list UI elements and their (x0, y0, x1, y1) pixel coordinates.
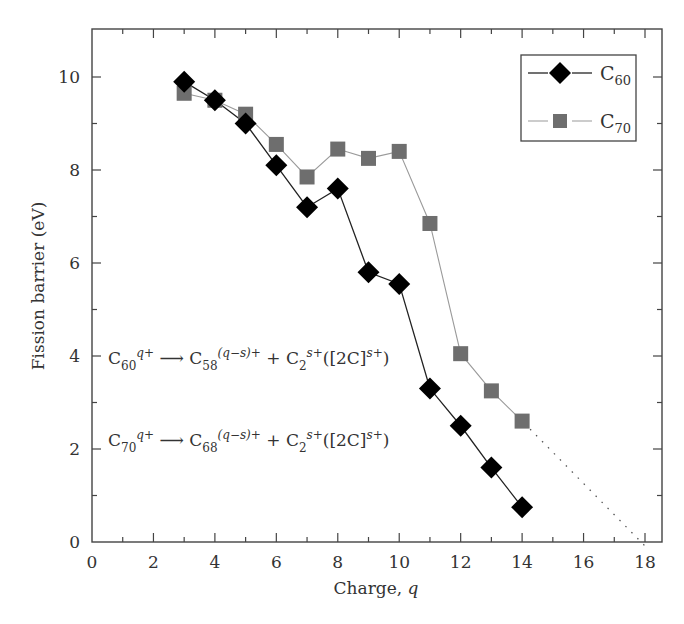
diamond-marker-icon (265, 154, 287, 176)
eq2-product1-sup: (q−s)+ (218, 428, 261, 442)
eq1-product2-sub: 2 (299, 359, 307, 373)
diamond-marker-icon (173, 71, 195, 93)
eq1-reactant-sub: 60 (121, 359, 136, 373)
y-tick-label: 6 (69, 253, 80, 273)
x-axis-title: Charge, q (334, 578, 419, 598)
eq2-product1: C (189, 430, 202, 450)
eq1-alt: ([2C] (323, 348, 367, 368)
diamond-marker-icon (450, 415, 472, 437)
diamond-marker-icon (419, 378, 441, 400)
eq2-alt-close: ) (383, 430, 390, 450)
eq1-product1-sup: (q−s)+ (218, 346, 261, 360)
eq1-plus: + (261, 348, 286, 368)
fission-barrier-chart: 0246810121416180246810 Charge, q Fission… (0, 0, 684, 624)
square-marker-icon (453, 346, 468, 361)
legend-label-c60-sub: 60 (615, 73, 632, 88)
reaction-arrow-icon: ⟶ (159, 348, 183, 368)
x-tick-label: 10 (388, 552, 410, 572)
series-lines (184, 82, 645, 546)
eq2-alt: ([2C] (323, 430, 367, 450)
legend: C60 C70 (521, 55, 636, 141)
x-tick-label: 8 (332, 552, 343, 572)
x-tick-label: 16 (573, 552, 595, 572)
eq1-product2: C (286, 348, 299, 368)
x-tick-label: 4 (209, 552, 220, 572)
y-tick-label: 0 (69, 532, 80, 552)
eq1-product2-sup: s+ (307, 346, 323, 360)
eq2-plus: + (261, 430, 286, 450)
diamond-marker-icon (204, 89, 226, 111)
eq2-product2-sub: 2 (299, 441, 307, 455)
legend-label-c70-sub: 70 (615, 121, 632, 136)
diamond-marker-icon (296, 196, 318, 218)
square-marker-icon (553, 114, 567, 128)
extrapolation-line (530, 429, 645, 546)
eq2-reactant: C (108, 430, 121, 450)
x-tick-label: 0 (87, 552, 98, 572)
x-tick-label: 12 (450, 552, 472, 572)
eq1-alt-close: ) (383, 348, 390, 368)
x-tick-label: 18 (634, 552, 656, 572)
eq2-reactant-sub: 70 (121, 441, 136, 455)
x-tick-label: 14 (511, 552, 533, 572)
eq2-product2: C (286, 430, 299, 450)
reaction-arrow-icon: ⟶ (159, 430, 183, 450)
y-tick-label: 8 (69, 160, 80, 180)
square-marker-icon (422, 216, 437, 231)
eq2-alt-sup: s+ (367, 428, 383, 442)
eq1-alt-sup: s+ (367, 346, 383, 360)
legend-label-c60-base: C (600, 62, 615, 84)
eq1-reactant-sup: q+ (136, 346, 154, 360)
square-marker-icon (515, 414, 530, 429)
diamond-marker-icon (511, 496, 533, 518)
square-marker-icon (484, 383, 499, 398)
eq1-product1-sub: 58 (202, 359, 217, 373)
y-tick-label: 2 (69, 439, 80, 459)
equation-c60: C60q+ ⟶ C58(q−s)+ + C2s+([2C]s+) (108, 346, 389, 371)
square-marker-icon (300, 169, 315, 184)
eq2-product2-sup: s+ (307, 428, 323, 442)
axis-tick-labels: 0246810121416180246810 (58, 67, 655, 572)
x-tick-label: 2 (148, 552, 159, 572)
diamond-marker-icon (480, 457, 502, 479)
y-axis-title: Fission barrier (eV) (28, 202, 48, 371)
square-marker-icon (269, 137, 284, 152)
diamond-marker-icon (327, 178, 349, 200)
diamond-marker-icon (358, 261, 380, 283)
equation-c70: C70q+ ⟶ C68(q−s)+ + C2s+([2C]s+) (108, 428, 389, 453)
eq1-product1: C (189, 348, 202, 368)
y-tick-label: 10 (58, 67, 80, 87)
series-line-c70 (184, 93, 522, 421)
square-marker-icon (361, 151, 376, 166)
x-tick-label: 6 (271, 552, 282, 572)
square-marker-icon (330, 142, 345, 157)
square-marker-icon (392, 144, 407, 159)
diamond-marker-icon (388, 273, 410, 295)
legend-label-c70-base: C (600, 110, 615, 132)
eq2-reactant-sup: q+ (136, 428, 154, 442)
eq1-reactant: C (108, 348, 121, 368)
diamond-marker-icon (235, 113, 257, 135)
y-tick-label: 4 (69, 346, 80, 366)
eq2-product1-sub: 68 (202, 441, 217, 455)
